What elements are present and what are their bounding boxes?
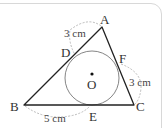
label-O: O <box>87 77 96 92</box>
label-D: D <box>61 45 70 60</box>
label-B: B <box>10 99 19 114</box>
measure-CF: 3 cm <box>129 76 151 88</box>
label-F: F <box>119 51 126 66</box>
measure-BE: 5 cm <box>44 112 66 124</box>
measure-AD: 3 cm <box>64 27 86 39</box>
center-O-dot <box>90 72 93 75</box>
label-A: A <box>100 12 110 27</box>
geometry-diagram: A B C D E F O 3 cm 3 cm 5 cm <box>0 0 168 128</box>
label-C: C <box>136 99 145 114</box>
label-E: E <box>89 109 97 124</box>
